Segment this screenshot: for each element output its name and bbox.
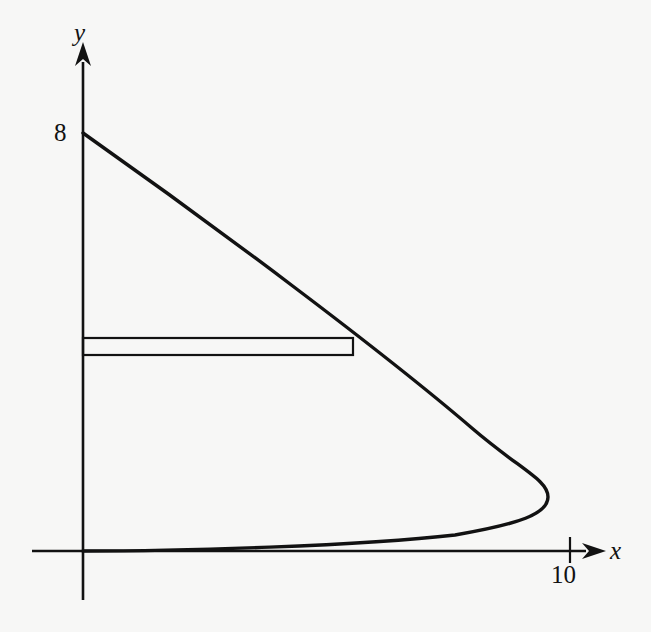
x-tick-label-10: 10 (551, 562, 576, 587)
math-figure-canvas: y x 8 10 (0, 0, 651, 632)
region-boundary-curve (83, 133, 548, 551)
figure-svg (0, 0, 651, 632)
y-axis-label: y (74, 20, 85, 45)
y-tick-label-8: 8 (54, 120, 67, 145)
representative-rectangle (83, 338, 353, 355)
x-axis-label: x (610, 538, 621, 563)
